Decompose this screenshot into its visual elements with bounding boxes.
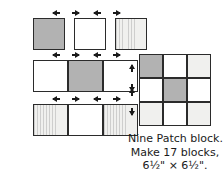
arrow-up-icon bbox=[129, 88, 135, 93]
arrow-left-icon bbox=[52, 52, 57, 58]
top-row-square-light bbox=[115, 18, 147, 50]
seam-arrow-pair-row3-left bbox=[52, 95, 80, 102]
arrow-right-icon bbox=[116, 10, 121, 16]
arrow-left-icon bbox=[52, 10, 57, 16]
nine-patch-cell-r3c2 bbox=[163, 102, 187, 126]
nine-patch-cell-r2c2 bbox=[163, 78, 187, 102]
nine-patch-cell-r3c1 bbox=[139, 102, 163, 126]
nine-patch-block bbox=[139, 54, 211, 126]
top-row-square-white bbox=[74, 18, 106, 50]
block-caption: Nine Patch block. Make 17 blocks, 6½" × … bbox=[128, 132, 222, 173]
arrow-right-icon bbox=[75, 52, 80, 58]
arrow-left-icon bbox=[93, 96, 98, 102]
nine-patch-piecing-diagram: Nine Patch block. Make 17 blocks, 6½" × … bbox=[0, 0, 224, 181]
arrow-right-icon bbox=[116, 96, 121, 102]
strip-row3-cell-2 bbox=[68, 104, 103, 136]
arrow-left-icon bbox=[93, 52, 98, 58]
caption-line-1: Nine Patch block. bbox=[128, 132, 222, 146]
strip-row-2 bbox=[33, 60, 138, 92]
strip-row2-cell-2 bbox=[68, 60, 103, 92]
arrow-right-icon bbox=[116, 52, 121, 58]
nine-patch-cell-r3c3 bbox=[187, 102, 211, 126]
arrow-down-icon bbox=[129, 111, 135, 116]
seam-arrow-pair-row2-left bbox=[52, 51, 80, 58]
nine-patch-cell-r2c3 bbox=[187, 78, 211, 102]
arrow-left-icon bbox=[52, 96, 57, 102]
caption-line-2: Make 17 blocks, bbox=[128, 146, 222, 160]
seam-arrow-pair-row3-right bbox=[93, 95, 121, 102]
strip-row3-cell-1 bbox=[33, 104, 68, 136]
arrow-right-icon bbox=[75, 96, 80, 102]
arrow-right-icon bbox=[75, 10, 80, 16]
top-row-square-medium bbox=[33, 18, 65, 50]
seam-arrow-pair-block-lower bbox=[128, 88, 135, 116]
seam-arrow-pair-top-right bbox=[93, 9, 121, 16]
nine-patch-cell-r1c1 bbox=[139, 54, 163, 78]
strip-row2-cell-1 bbox=[33, 60, 68, 92]
caption-line-3: 6½" × 6½". bbox=[128, 159, 222, 173]
strip-row-3 bbox=[33, 104, 138, 136]
nine-patch-cell-r1c2 bbox=[163, 54, 187, 78]
nine-patch-cell-r2c1 bbox=[139, 78, 163, 102]
nine-patch-cell-r1c3 bbox=[187, 54, 211, 78]
arrow-left-icon bbox=[93, 10, 98, 16]
seam-arrow-pair-top-left bbox=[52, 9, 80, 16]
arrow-up-icon bbox=[129, 64, 135, 69]
seam-arrow-pair-row2-right bbox=[93, 51, 121, 58]
